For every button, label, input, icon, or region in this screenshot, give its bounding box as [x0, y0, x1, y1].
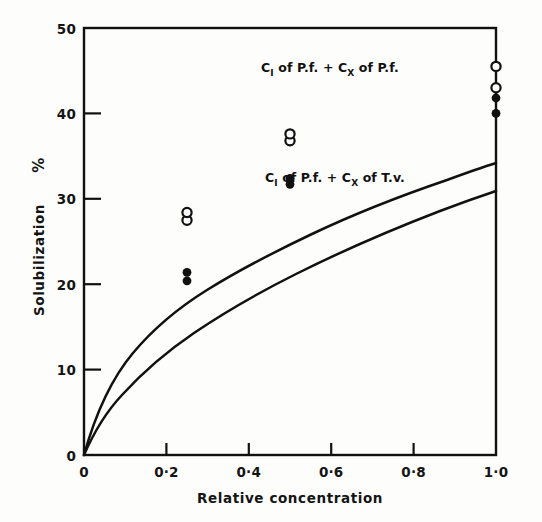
- y-tick-labels: 50 40 30 20 10 0: [57, 21, 76, 464]
- markers-upper-series: [182, 62, 500, 225]
- x-tick-labels: 0 0·2 0·4 0·6 0·8 1·0: [79, 464, 508, 480]
- data-point-filled-circle: [492, 109, 501, 118]
- plot-border: [84, 28, 496, 455]
- y-axis-title-group: Solubilization %: [30, 157, 48, 316]
- data-point-filled-circle: [183, 276, 192, 285]
- y-tick-label-10: 10: [57, 362, 76, 378]
- data-point-open-circle: [285, 129, 294, 138]
- x-tick-label-0-6: 0·6: [319, 464, 344, 480]
- curve-label-upper-mid: of P.f. + C: [274, 60, 347, 75]
- markers-lower-series: [183, 94, 501, 286]
- y-tick-label-20: 20: [57, 277, 76, 293]
- y-axis-ticks: [84, 113, 101, 369]
- curve-label-upper-sub2: X: [347, 68, 354, 78]
- y-axis-unit-percent: %: [30, 157, 48, 173]
- curve-label-upper-c: C: [261, 60, 270, 75]
- data-point-open-circle: [491, 62, 500, 71]
- curve-label-lower-end: of T.v.: [358, 170, 405, 185]
- figure-container: 50 40 30 20 10 0 0 0·2 0·4 0·6 0·8 1·0 R…: [0, 0, 542, 522]
- y-tick-label-40: 40: [57, 106, 76, 122]
- y-tick-label-50: 50: [57, 21, 76, 37]
- x-axis-title: Relative concentration: [197, 490, 383, 506]
- x-tick-label-0-8: 0·8: [401, 464, 426, 480]
- data-point-filled-circle: [492, 94, 501, 103]
- data-point-open-circle: [182, 208, 191, 217]
- y-axis-title: Solubilization: [31, 204, 47, 316]
- x-tick-label-0-4: 0·4: [237, 464, 262, 480]
- curve-label-upper: CI of P.f. + CX of P.f.: [261, 60, 399, 78]
- y-tick-label-0: 0: [66, 448, 76, 464]
- curve-label-lower-c: C: [265, 170, 274, 185]
- plot-frame: [84, 28, 496, 455]
- data-point-open-circle: [491, 83, 500, 92]
- x-tick-label-0-2: 0·2: [154, 464, 179, 480]
- curve-lower-pf-tv: [84, 191, 496, 455]
- curve-upper-pf-pf: [84, 163, 496, 455]
- curve-label-lower-mid: of P.f. + C: [278, 170, 351, 185]
- x-axis-ticks: [166, 443, 413, 455]
- y-tick-label-30: 30: [57, 191, 76, 207]
- curve-label-upper-end: of P.f.: [354, 60, 399, 75]
- chart-canvas: 50 40 30 20 10 0 0 0·2 0·4 0·6 0·8 1·0 R…: [0, 0, 542, 522]
- curve-label-lower-sub2: X: [351, 178, 358, 188]
- x-tick-label-0: 0: [79, 464, 89, 480]
- x-tick-label-1-0: 1·0: [484, 464, 509, 480]
- data-point-filled-circle: [183, 268, 192, 277]
